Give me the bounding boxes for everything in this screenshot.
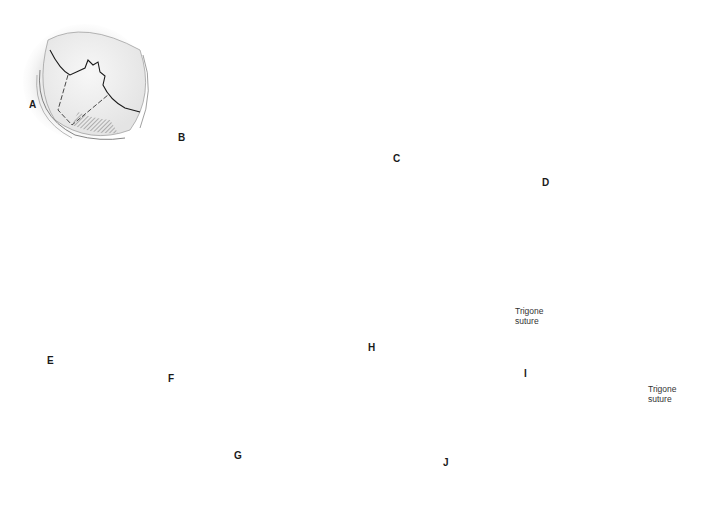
callout-line-1: Trigone bbox=[515, 306, 544, 316]
callout-line-2: suture bbox=[648, 394, 677, 404]
panel-a-drawing bbox=[23, 24, 148, 140]
callout-trigone-suture-i: Trigone suture bbox=[648, 384, 677, 404]
callout-trigone-suture-h: Trigone suture bbox=[515, 306, 544, 326]
panel-label-j: J bbox=[443, 457, 449, 468]
panel-label-f: F bbox=[168, 373, 174, 384]
panel-label-g: G bbox=[234, 450, 242, 461]
panel-label-a: A bbox=[29, 99, 36, 110]
panel-label-h: H bbox=[368, 342, 375, 353]
panel-label-e: E bbox=[47, 355, 54, 366]
surgical-illustration: A B C D E F G H I J Trigone suture Trigo… bbox=[0, 0, 703, 513]
panel-label-b: B bbox=[178, 132, 185, 143]
callout-line-2: suture bbox=[515, 316, 544, 326]
panel-label-c: C bbox=[393, 153, 400, 164]
panel-label-i: I bbox=[524, 368, 527, 379]
callout-line-1: Trigone bbox=[648, 384, 677, 394]
panel-label-d: D bbox=[542, 177, 549, 188]
